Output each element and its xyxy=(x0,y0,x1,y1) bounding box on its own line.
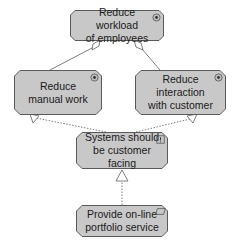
requirement-online-portfolio[interactable]: Provide on-line portfolio service xyxy=(76,205,168,237)
principle-icon xyxy=(156,135,165,144)
goal-icon xyxy=(152,13,161,22)
realization-arrow-icon xyxy=(116,170,128,181)
goal-reduce-workload[interactable]: Reduce workload of employees xyxy=(70,10,164,41)
realization-edge-bottom[interactable] xyxy=(116,170,128,205)
node-label: Provide on-line portfolio service xyxy=(77,208,167,234)
node-label: Reduce interaction with customer xyxy=(135,73,226,112)
principle-customer-facing[interactable]: Systems should be customer facing xyxy=(76,132,168,169)
goal-icon xyxy=(90,73,99,82)
realization-arrow-icon xyxy=(187,114,197,123)
realization-edge-right[interactable] xyxy=(136,114,197,132)
goal-reduce-manual-work[interactable]: Reduce manual work xyxy=(14,70,102,115)
node-label: Reduce manual work xyxy=(20,80,96,106)
goal-icon xyxy=(214,73,223,82)
requirement-icon xyxy=(155,208,166,215)
node-label: Systems should be customer facing xyxy=(76,131,168,170)
node-label: Reduce workload of employees xyxy=(70,6,164,45)
realization-edge-left[interactable] xyxy=(30,114,106,132)
goal-reduce-interaction[interactable]: Reduce interaction with customer xyxy=(135,70,226,115)
